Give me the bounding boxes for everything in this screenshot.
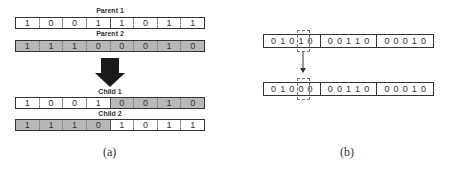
gene-bit: 0	[364, 36, 369, 46]
gene-cell: 1	[157, 120, 181, 130]
gene-bit: 0	[337, 36, 342, 46]
gene-cell: 1	[62, 41, 86, 51]
gene-bit: 0	[394, 84, 399, 94]
gene-cell: 1	[16, 41, 39, 51]
gene-cell: 1	[157, 41, 181, 51]
gene-cell: 1	[62, 120, 86, 130]
gene-cell: 1	[110, 18, 134, 28]
parent1-label: Parent 1	[15, 7, 205, 14]
gene-bit: 1	[346, 36, 351, 46]
gene-segment: 00110	[320, 83, 377, 95]
gene-bit: 0	[421, 36, 426, 46]
gene-bit: 0	[403, 84, 408, 94]
gene-bit: 0	[337, 84, 342, 94]
gene-segment: 00010	[376, 35, 433, 47]
gene-cell: 1	[86, 98, 110, 108]
gene-bit: 0	[384, 36, 389, 46]
gene-cell: 0	[180, 98, 204, 108]
parent2-label: Parent 2	[15, 30, 205, 37]
gene-cell: 1	[16, 18, 39, 28]
gene-cell: 1	[157, 98, 181, 108]
gene-cell: 1	[16, 120, 39, 130]
gene-cell: 1	[157, 18, 181, 28]
gene-segment: 00010	[376, 83, 433, 95]
gene-bit: 1	[355, 84, 360, 94]
gene-cell: 1	[180, 18, 204, 28]
gene-cell: 1	[39, 41, 63, 51]
gene-cell: 1	[16, 98, 39, 108]
down-arrow-icon	[95, 58, 125, 88]
gene-cell: 0	[133, 120, 157, 130]
gene-cell: 1	[110, 120, 134, 130]
child1-chromosome: 10010010	[15, 97, 205, 109]
gene-cell: 1	[180, 120, 204, 130]
caption-b: (b)	[340, 145, 354, 160]
gene-cell: 0	[180, 41, 204, 51]
gene-bit: 1	[412, 84, 417, 94]
gene-cell: 0	[133, 18, 157, 28]
chromosome-after-mutation: 010000011000010	[263, 82, 434, 96]
caption-a: (a)	[103, 145, 116, 160]
gene-bit: 0	[384, 84, 389, 94]
child2-chromosome: 11101011	[15, 119, 205, 131]
gene-cell: 0	[39, 18, 63, 28]
gene-bit: 1	[280, 36, 285, 46]
gene-bit: 0	[364, 84, 369, 94]
gene-cell: 0	[62, 18, 86, 28]
gene-cell: 1	[39, 120, 63, 130]
gene-bit: 0	[328, 84, 333, 94]
gene-cell: 0	[133, 41, 157, 51]
gene-segment: 01000	[264, 83, 320, 95]
gene-cell: 0	[86, 120, 110, 130]
gene-bit: 1	[346, 84, 351, 94]
child2-label: Child 2	[15, 110, 205, 117]
gene-segment: 00110	[320, 35, 377, 47]
mutation-highlight-top	[297, 30, 310, 52]
gene-bit: 1	[280, 84, 285, 94]
gene-bit: 0	[421, 84, 426, 94]
gene-cell: 0	[110, 41, 134, 51]
gene-bit: 0	[403, 36, 408, 46]
gene-bit: 1	[355, 36, 360, 46]
child1-label: Child 1	[15, 88, 205, 95]
gene-cell: 0	[86, 41, 110, 51]
chromosome-before-mutation: 010100011000010	[263, 34, 434, 48]
gene-cell: 1	[86, 18, 110, 28]
gene-cell: 0	[110, 98, 134, 108]
mutation-arrow-icon	[299, 52, 307, 74]
parent1-chromosome: 10011011	[15, 17, 205, 29]
gene-bit: 0	[328, 36, 333, 46]
gene-bit: 0	[271, 36, 276, 46]
gene-segment: 01010	[264, 35, 320, 47]
parent2-chromosome: 11100010	[15, 40, 205, 52]
gene-cell: 0	[62, 98, 86, 108]
gene-bit: 0	[289, 36, 294, 46]
gene-bit: 0	[394, 36, 399, 46]
gene-cell: 0	[133, 98, 157, 108]
gene-bit: 0	[289, 84, 294, 94]
gene-bit: 0	[271, 84, 276, 94]
gene-cell: 0	[39, 98, 63, 108]
gene-bit: 1	[412, 36, 417, 46]
mutation-highlight-bottom	[297, 78, 310, 100]
